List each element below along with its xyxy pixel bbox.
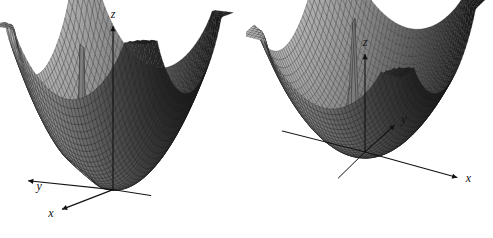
surface-mesh xyxy=(246,0,487,158)
y-axis-negative-line xyxy=(113,190,151,196)
x-axis-label: x xyxy=(465,171,472,185)
y-axis-label: y xyxy=(35,179,42,193)
y-axis-label: y xyxy=(400,112,407,126)
left-surface-canvas: zxy xyxy=(0,0,246,238)
x-axis-label: x xyxy=(47,206,54,220)
left-surface-panel: zxy xyxy=(0,0,246,238)
z-axis-label: z xyxy=(110,7,116,21)
x-axis-arrow xyxy=(62,190,113,210)
surface-plot-figure: zxy zxy xyxy=(0,0,493,238)
x-axis-arrow xyxy=(365,152,457,179)
right-surface-panel: zxy xyxy=(246,0,493,238)
right-surface-canvas: zxy xyxy=(246,0,493,238)
surface-mesh xyxy=(0,0,233,190)
z-axis-label: z xyxy=(362,35,368,49)
